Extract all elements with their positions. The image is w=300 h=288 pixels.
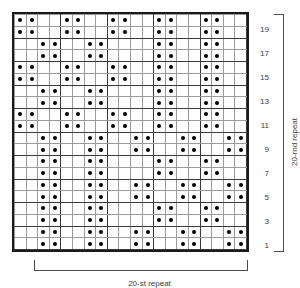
row-number-label: 19 [251,26,269,34]
purl-dot-icon [204,65,208,69]
chart-cell [38,15,50,27]
chart-cell [130,167,142,179]
purl-dot-icon [169,171,173,175]
purl-dot-icon [88,195,92,199]
chart-cell [165,38,177,50]
chart-cell [61,226,73,238]
chart-cell [235,62,247,74]
chart-cell [223,97,235,109]
chart-cell [84,167,96,179]
purl-dot-icon [76,30,80,34]
chart-cell [119,226,131,238]
chart-cell [177,167,189,179]
chart-cell [107,85,119,97]
purl-dot-icon [99,54,103,58]
purl-dot-icon [88,206,92,210]
purl-dot-icon [53,136,57,140]
chart-cell [188,62,200,74]
purl-dot-icon [204,18,208,22]
chart-cell [142,97,154,109]
chart-cell [107,156,119,168]
chart-cell [188,109,200,121]
chart-cell [235,120,247,132]
chart-cell [84,26,96,38]
chart-cell [223,26,235,38]
chart-cell [96,179,108,191]
chart-cell [130,203,142,215]
purl-dot-icon [88,159,92,163]
chart-cell [61,191,73,203]
chart-cell [142,144,154,156]
chart-cell [142,156,154,168]
chart-cell [72,62,84,74]
chart-cell [177,97,189,109]
chart-cell [72,26,84,38]
chart-cell [72,73,84,85]
chart-cell [15,120,27,132]
chart-cell [61,179,73,191]
purl-dot-icon [215,89,219,93]
chart-cell [142,132,154,144]
chart-cell [38,38,50,50]
chart-cell [235,26,247,38]
chart-cell [61,62,73,74]
purl-dot-icon [157,159,161,163]
chart-cell [49,15,61,27]
purl-dot-icon [192,148,196,152]
purl-dot-icon [88,183,92,187]
purl-dot-icon [123,77,127,81]
chart-cell [188,73,200,85]
chart-cell [15,132,27,144]
chart-cell [212,62,224,74]
chart-cell [165,15,177,27]
purl-dot-icon [181,195,185,199]
chart-cell [119,50,131,62]
chart-cell [177,62,189,74]
chart-cell [165,226,177,238]
chart-cell [72,144,84,156]
purl-dot-icon [204,218,208,222]
row-number-label: 3 [251,218,269,226]
purl-dot-icon [88,54,92,58]
chart-cell [38,73,50,85]
chart-cell [188,26,200,38]
chart-cell [165,50,177,62]
purl-dot-icon [227,148,231,152]
chart-cell [188,120,200,132]
row-number-label: 1 [251,242,269,250]
chart-cell [235,203,247,215]
purl-dot-icon [169,42,173,46]
chart-cell [72,167,84,179]
chart-cell [223,15,235,27]
chart-cell [119,62,131,74]
chart-cell [235,144,247,156]
chart-cell [130,179,142,191]
purl-dot-icon [227,136,231,140]
purl-dot-icon [215,124,219,128]
purl-dot-icon [111,124,115,128]
chart-cell [96,132,108,144]
row-number-label: 11 [251,122,269,130]
chart-cell [84,144,96,156]
chart-cell [154,167,166,179]
chart-cell [26,238,38,250]
chart-cell [84,214,96,226]
chart-cell [38,214,50,226]
purl-dot-icon [239,242,243,246]
chart-cell [26,132,38,144]
chart-cell [26,50,38,62]
chart-cell [223,179,235,191]
purl-dot-icon [99,159,103,163]
chart-cell [154,50,166,62]
chart-cell [200,120,212,132]
purl-dot-icon [169,89,173,93]
chart-cell [188,144,200,156]
chart-cell [223,132,235,144]
chart-cell [107,214,119,226]
round-repeat-label: 20-rnd repeat [289,115,300,167]
purl-dot-icon [65,65,69,69]
chart-cell [154,97,166,109]
chart-cell [212,97,224,109]
chart-cell [142,62,154,74]
chart-cell [84,50,96,62]
